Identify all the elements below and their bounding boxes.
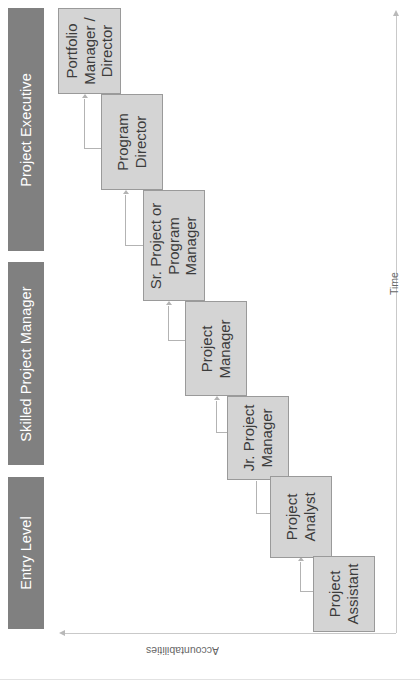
step-label: Project Assistant <box>326 564 361 625</box>
connector-segment <box>300 562 301 591</box>
step-label-line: Director <box>132 113 150 171</box>
step-label: Project Analyst <box>283 492 318 541</box>
step-portfolio-manager-director[interactable]: Portfolio Manager / Director <box>58 8 121 94</box>
step-program-director[interactable]: Program Director <box>101 94 163 190</box>
connector-arrowhead-icon <box>123 190 129 194</box>
step-label-line: Manager <box>216 319 234 378</box>
axis-accountabilities-line <box>65 633 396 634</box>
band-label: Skilled Project Manager <box>19 286 34 441</box>
band-skilled-project-manager: Skilled Project Manager <box>8 262 44 465</box>
band-label: Entry Level <box>19 516 34 590</box>
step-jr-project-manager[interactable]: Jr. Project Manager <box>227 396 289 480</box>
step-project-manager[interactable]: Project Manager <box>185 301 247 396</box>
step-label-line: Sr. Project or <box>147 202 165 289</box>
step-project-assistant[interactable]: Project Assistant <box>313 556 375 632</box>
diagram-canvas: Project Executive Skilled Project Manage… <box>0 0 420 683</box>
connector-segment <box>256 481 257 513</box>
step-label-line: Program <box>114 113 132 171</box>
step-label: Jr. Project Manager <box>240 405 275 472</box>
step-label-line: Analyst <box>301 492 319 541</box>
step-label-line: Portfolio <box>63 17 81 85</box>
step-label-line: Manager <box>183 202 201 289</box>
page-divider <box>0 679 420 680</box>
axis-time-arrowhead-icon <box>393 10 399 16</box>
step-label: Portfolio Manager / Director <box>63 17 116 85</box>
step-label: Project Manager <box>198 319 233 378</box>
step-project-analyst[interactable]: Project Analyst <box>270 476 332 558</box>
step-sr-project-or-program-manager[interactable]: Sr. Project or Program Manager <box>143 190 205 301</box>
connector-arrowhead-icon <box>82 94 88 98</box>
band-label: Project Executive <box>19 73 34 187</box>
step-label-line: Project <box>326 564 344 625</box>
connector-segment <box>216 401 217 432</box>
axis-accountabilities-arrowhead-icon <box>59 630 65 636</box>
step-label-line: Jr. Project <box>240 405 258 472</box>
connector-segment <box>168 306 169 340</box>
connector-arrowhead-icon <box>166 301 172 305</box>
axis-time-label: Time <box>389 272 400 295</box>
step-label-line: Manager / <box>81 17 99 85</box>
band-entry-level: Entry Level <box>8 477 44 629</box>
step-label-line: Director <box>98 17 116 85</box>
step-label-line: Project <box>198 319 216 378</box>
band-project-executive: Project Executive <box>8 8 44 251</box>
axis-accountabilities-label: Accountabilities <box>146 645 219 656</box>
step-label-line: Assistant <box>344 564 362 625</box>
connector-segment <box>84 99 85 148</box>
step-label-line: Manager <box>258 405 276 472</box>
connector-segment <box>125 195 126 245</box>
axis-time-line <box>396 16 397 633</box>
step-label: Sr. Project or Program Manager <box>147 202 200 289</box>
connector-arrowhead-icon <box>214 396 220 400</box>
step-label-line: Program <box>165 202 183 289</box>
step-label-line: Project <box>283 492 301 541</box>
step-label: Program Director <box>114 113 149 171</box>
